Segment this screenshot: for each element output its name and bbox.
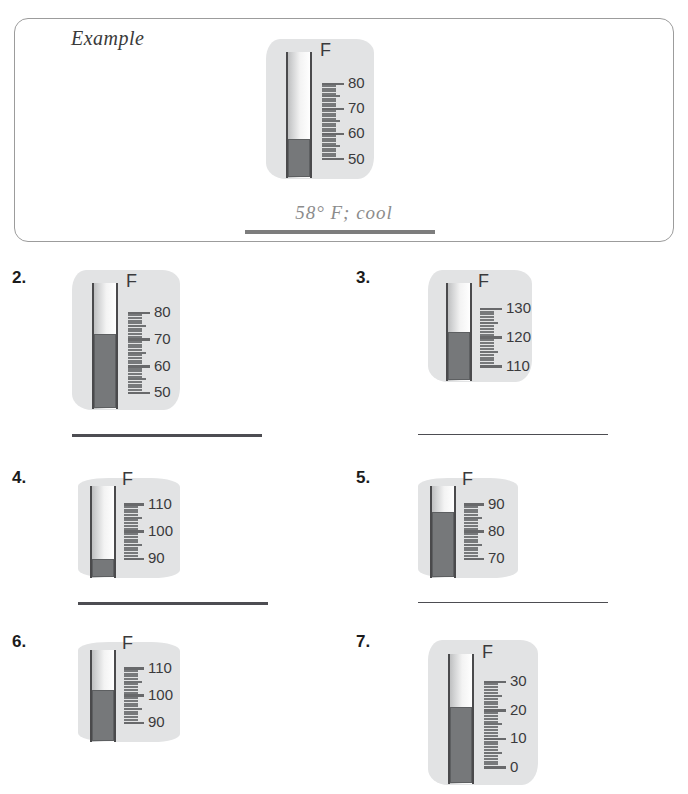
problem-4-thermometer-tick [124,509,138,511]
problem-5-thermometer-tick [464,541,478,543]
problem-7-thermometer-mercury-column [450,707,472,783]
problem-5-thermometer-tick [464,511,478,513]
problem-2-thermometer-tick [128,325,146,327]
problem-5-thermometer-tick [464,547,478,549]
problem-2-thermometer-scale [128,270,152,410]
problem-3-thermometer-tick-label: 120 [506,329,531,344]
problem-4-thermometer-tick [124,547,138,549]
problem-4-thermometer-tick [124,519,138,521]
problem-5-thermometer-tick [464,549,478,551]
problem-2-thermometer-tick [128,344,142,346]
problem-7-thermometer-tick [484,718,498,720]
problem-7-thermometer-tick [484,761,498,763]
problem-3-thermometer-scale [480,270,504,382]
problem-4-thermometer-tick [124,506,138,508]
problem-6-thermometer: F11010090 [78,642,180,742]
problem-6-thermometer-scale [124,642,146,742]
problem-2-thermometer-tick [128,328,142,330]
problem-7-thermometer-tick [484,683,498,685]
problem-4-thermometer-scale [124,478,146,578]
problem-5-thermometer-tick [464,517,482,519]
problem-7-thermometer-tick-label: 30 [510,673,527,688]
example-thermometer-tick [322,118,336,120]
problem-2-thermometer-tick [128,333,142,335]
answer-line[interactable] [418,434,608,435]
problem-4-thermometer-tick-label: 110 [148,496,172,511]
problem-5-thermometer: F908070 [418,478,518,578]
problem-7-thermometer-tick [484,743,498,745]
example-thermometer-scale [322,39,346,179]
problem-7-thermometer-tick [484,755,498,757]
example-thermometer-tick [322,123,336,125]
problem-2-thermometer-tick [128,312,150,315]
example-thermometer-tick [322,115,336,117]
problem-3-thermometer-tick [480,334,494,336]
answer-line[interactable] [418,602,608,603]
answer-line[interactable] [72,434,262,437]
example-thermometer-tick [322,105,336,107]
problem-7-thermometer-tick [484,703,498,705]
problem-6-thermometer-tick [124,692,138,694]
problem-4-thermometer-tick [124,558,144,561]
problem-5-thermometer-tick [464,558,484,561]
problem-4-thermometer-tick [124,528,138,530]
problem-7-thermometer-tick [484,763,498,765]
problem-7-thermometer-tick [484,758,498,760]
problem-number: 5. [356,468,370,488]
problem-5-thermometer-tick [464,536,478,538]
problem-number: 2. [12,268,26,288]
problem-6-thermometer-tick [124,694,144,697]
example-thermometer-tick [322,138,336,140]
problem-2-thermometer-tick [128,370,142,372]
example-thermometer-tick [322,148,336,150]
problem-2-thermometer-tick [128,381,142,383]
problem-4-thermometer: F11010090 [78,478,180,578]
problem-6-thermometer-tick [124,686,138,688]
problem-5-thermometer-tick [464,525,478,527]
problem-7-thermometer-tick [484,695,502,697]
problem-2-thermometer-tick [128,392,150,395]
problem-4-thermometer-mercury-column [92,559,114,577]
problem-2-thermometer-tick [128,384,142,386]
example-answer-line [245,230,435,234]
problem-7-thermometer-tick [484,729,498,731]
problem-4-thermometer-tick [124,552,138,554]
problem-5-thermometer-tick [464,522,478,524]
example-thermometer-tick [322,88,336,90]
problem-7-thermometer-tick [484,692,498,694]
example-thermometer-tick [322,83,344,86]
problem-7-thermometer: F3020100 [428,640,538,785]
problem-3-thermometer-tick [480,325,494,327]
example-thermometer-tick [322,133,344,136]
problem-7-thermometer-tick [484,715,498,717]
problem-2-thermometer-tick [128,368,142,370]
problem-7-thermometer-tick [484,721,498,723]
problem-6-thermometer-mercury-column [92,690,114,741]
problem-3-thermometer-tick [480,311,494,313]
problem-3-thermometer-tick [480,319,494,321]
problem-3-thermometer-tick-label: 110 [506,358,530,373]
problem-2-thermometer-tick-label: 70 [154,331,171,346]
problem-7-thermometer-tick-label: 0 [510,759,518,774]
example-thermometer-tick [322,98,336,100]
problem-5-thermometer-tick [464,514,478,516]
problem-number: 3. [356,268,370,288]
problem-2-thermometer-tick [128,338,150,341]
example-thermometer-tick [322,158,344,161]
problem-6-thermometer-tick-label: 90 [148,714,165,729]
problem-7-thermometer-tick [484,746,498,748]
problem-4-thermometer-tick-label: 90 [148,550,165,565]
problem-number: 4. [12,468,26,488]
problem-6-thermometer-tick [124,697,138,699]
problem-3-thermometer-tick [480,339,494,341]
example-thermometer-tick [322,108,344,111]
example-thermometer-tick [322,125,336,127]
problem-7-thermometer-tick [484,726,498,728]
problem-5-thermometer-tick-label: 90 [488,496,505,511]
problem-3-thermometer-tick [480,342,494,344]
problem-2-thermometer-tick [128,330,142,332]
example-thermometer-tick-label: 60 [348,125,365,140]
example-answer-wrap: 58° F; cool [15,202,673,224]
example-thermometer-tick [322,140,336,142]
answer-line[interactable] [78,602,268,605]
